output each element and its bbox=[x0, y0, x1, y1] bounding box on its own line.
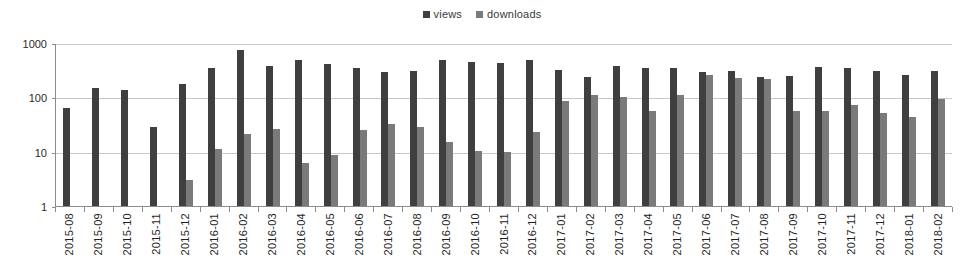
legend-item-views: views bbox=[423, 8, 463, 20]
x-tick-mark bbox=[113, 207, 114, 212]
x-axis-tick-label: 2017-06 bbox=[700, 213, 712, 255]
x-tick-mark bbox=[229, 207, 230, 212]
bar-views bbox=[439, 60, 446, 206]
x-tick-mark bbox=[460, 207, 461, 212]
bar-views bbox=[526, 60, 533, 206]
x-tick-mark bbox=[778, 207, 779, 212]
x-label-cell: 2016-06 bbox=[344, 213, 373, 271]
bar-group bbox=[836, 44, 865, 206]
x-axis-tick-label: 2017-04 bbox=[642, 213, 654, 255]
bar-views bbox=[63, 108, 70, 206]
bar-group bbox=[519, 44, 548, 206]
bar-group bbox=[865, 44, 894, 206]
x-axis-tick-label: 2017-10 bbox=[816, 213, 828, 255]
bar-downloads bbox=[938, 99, 945, 206]
bar-group bbox=[692, 44, 721, 206]
x-tick-mark bbox=[171, 207, 172, 212]
x-label-cell: 2017-06 bbox=[692, 213, 721, 271]
x-tick-mark bbox=[373, 207, 374, 212]
bar-group bbox=[923, 44, 952, 206]
bar-views bbox=[613, 66, 620, 206]
x-label-cell: 2015-09 bbox=[84, 213, 113, 271]
bar-downloads bbox=[388, 124, 395, 207]
bar-downloads bbox=[360, 130, 367, 206]
x-label-cell: 2016-01 bbox=[200, 213, 229, 271]
x-tick-mark bbox=[634, 207, 635, 212]
x-axis-tick-label: 2016-07 bbox=[382, 213, 394, 255]
x-axis-tick-label: 2016-11 bbox=[498, 213, 510, 255]
bar-views bbox=[179, 84, 186, 206]
bar-group bbox=[287, 44, 316, 206]
y-axis-tick-label: 100 bbox=[0, 92, 47, 104]
bar-views bbox=[237, 50, 244, 206]
x-label-cell: 2016-10 bbox=[460, 213, 489, 271]
bar-group bbox=[201, 44, 230, 206]
x-label-cell: 2017-11 bbox=[836, 213, 865, 271]
bar-downloads bbox=[880, 113, 887, 206]
bar-downloads bbox=[822, 111, 829, 206]
bar-views bbox=[902, 75, 909, 206]
bar-views bbox=[786, 76, 793, 206]
x-label-cell: 2017-03 bbox=[605, 213, 634, 271]
bar-downloads bbox=[446, 142, 453, 206]
bar-group bbox=[576, 44, 605, 206]
x-tick-mark bbox=[431, 207, 432, 212]
bar-downloads bbox=[649, 111, 656, 206]
x-label-cell: 2015-12 bbox=[171, 213, 200, 271]
x-label-cell: 2016-08 bbox=[402, 213, 431, 271]
bar-group bbox=[490, 44, 519, 206]
bar-views bbox=[931, 71, 938, 206]
chart-legend: views downloads bbox=[0, 8, 964, 20]
x-tick-mark bbox=[749, 207, 750, 212]
x-axis-tick-label: 2018-01 bbox=[903, 213, 915, 255]
y-axis-tick-label: 10 bbox=[0, 147, 47, 159]
x-axis-tick-label: 2017-11 bbox=[845, 213, 857, 255]
x-axis-tick-label: 2016-08 bbox=[411, 213, 423, 255]
bar-group bbox=[605, 44, 634, 206]
bar-downloads bbox=[504, 152, 511, 206]
bar-group bbox=[374, 44, 403, 206]
bar-group bbox=[663, 44, 692, 206]
x-axis-tick-label: 2016-10 bbox=[469, 213, 481, 255]
legend-label-downloads: downloads bbox=[487, 8, 541, 20]
x-label-cell: 2015-11 bbox=[142, 213, 171, 271]
x-axis-tick-label: 2016-02 bbox=[237, 213, 249, 255]
x-label-cell: 2017-02 bbox=[576, 213, 605, 271]
bar-downloads bbox=[417, 127, 424, 206]
bar-downloads bbox=[331, 155, 338, 206]
x-tick-mark bbox=[721, 207, 722, 212]
x-label-cell: 2017-07 bbox=[721, 213, 750, 271]
bar-views bbox=[324, 64, 331, 206]
x-axis-tick-label: 2015-12 bbox=[179, 213, 191, 255]
x-tick-mark bbox=[315, 207, 316, 212]
bar-views bbox=[121, 90, 128, 206]
bar-downloads bbox=[677, 95, 684, 206]
x-axis-tick-label: 2016-09 bbox=[440, 213, 452, 255]
x-tick-mark bbox=[142, 207, 143, 212]
bar-downloads bbox=[215, 149, 222, 206]
bar-group bbox=[461, 44, 490, 206]
x-tick-mark bbox=[576, 207, 577, 212]
bar-downloads bbox=[244, 134, 251, 206]
bar-downloads bbox=[706, 75, 713, 206]
bar-downloads bbox=[562, 101, 569, 206]
x-label-cell: 2017-09 bbox=[778, 213, 807, 271]
x-label-cell: 2017-01 bbox=[547, 213, 576, 271]
x-tick-mark bbox=[547, 207, 548, 212]
x-label-cell: 2016-11 bbox=[489, 213, 518, 271]
x-tick-mark bbox=[836, 207, 837, 212]
legend-item-downloads: downloads bbox=[476, 8, 541, 20]
bar-views bbox=[150, 127, 157, 206]
bar-group bbox=[56, 44, 85, 206]
x-label-cell: 2016-07 bbox=[373, 213, 402, 271]
x-label-cell: 2016-05 bbox=[315, 213, 344, 271]
plot-area bbox=[55, 44, 952, 207]
x-axis-tick-label: 2015-10 bbox=[121, 213, 133, 255]
x-label-cell: 2016-04 bbox=[287, 213, 316, 271]
bar-group bbox=[750, 44, 779, 206]
x-tick-mark bbox=[865, 207, 866, 212]
x-label-cell: 2017-04 bbox=[634, 213, 663, 271]
bar-group bbox=[316, 44, 345, 206]
bar-views bbox=[757, 77, 764, 206]
x-axis-tick-label: 2017-09 bbox=[787, 213, 799, 255]
